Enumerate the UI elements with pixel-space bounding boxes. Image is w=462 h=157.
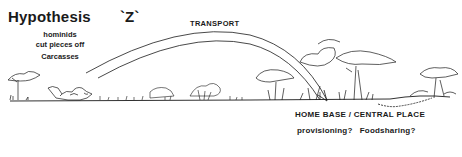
annotation-line: cut pieces off <box>20 40 100 50</box>
bush-icon <box>150 83 220 100</box>
grass-icon <box>100 96 242 100</box>
home-base-label: HOME BASE / CENTRAL PLACE <box>295 110 425 119</box>
transport-label: TRANSPORT <box>190 19 239 28</box>
questions-label: provisioning? Foodsharing? <box>297 126 415 135</box>
carcass-annotation: hominids cut pieces off Carcasses <box>20 30 100 62</box>
annotation-line: Carcasses <box>20 52 100 62</box>
transport-arc-arrow <box>86 32 327 101</box>
hypothesis-title: Hypothesis <box>8 8 91 25</box>
acacia-tree-icon <box>8 71 40 100</box>
palm-tree-icon <box>256 39 458 100</box>
annotation-line: hominids <box>20 30 100 40</box>
hypothesis-label: `Z` <box>120 8 139 25</box>
carcass-icon <box>48 87 92 101</box>
